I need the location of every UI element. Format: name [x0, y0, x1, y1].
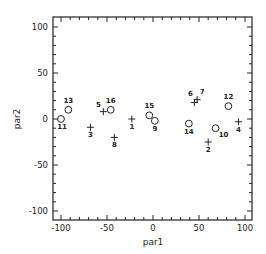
- x-tick-label: 0: [150, 223, 155, 233]
- plus-marker: [205, 139, 212, 146]
- plus-marker: [111, 134, 118, 141]
- x-tick-label: -100: [51, 223, 70, 233]
- point-label: 6: [188, 90, 193, 98]
- point-label: 7: [200, 88, 205, 96]
- point-label: 16: [106, 97, 116, 105]
- circle-marker: [146, 112, 153, 119]
- y-tick-label: -50: [34, 160, 48, 170]
- plus-marker: [235, 118, 242, 125]
- point-label: 10: [219, 131, 229, 139]
- point-label: 5: [96, 101, 101, 109]
- scatter-chart: -100-50050100 -100-50050100 123456789101…: [0, 0, 266, 254]
- point-label: 11: [57, 123, 67, 131]
- point-label: 2: [206, 146, 211, 154]
- y-axis-ticks: -100-50050100: [29, 22, 252, 216]
- x-axis-label: par1: [143, 237, 164, 247]
- point-label: 13: [63, 97, 73, 105]
- y-tick-label: 50: [37, 68, 48, 78]
- y-axis-label: par2: [12, 109, 22, 130]
- plus-marker: [100, 108, 107, 115]
- circle-marker: [225, 103, 232, 110]
- y-tick-label: -100: [29, 206, 48, 216]
- circle-marker: [65, 106, 72, 113]
- point-label: 4: [236, 126, 241, 134]
- point-label: 3: [88, 131, 93, 139]
- circle-marker: [185, 120, 192, 127]
- plus-marker: [128, 116, 135, 123]
- point-label: 14: [184, 128, 194, 136]
- point-label: 1: [129, 123, 134, 131]
- x-tick-label: 50: [194, 223, 205, 233]
- data-points: 12345678910111213141516: [57, 88, 242, 154]
- circle-marker: [58, 116, 65, 123]
- point-label: 8: [112, 141, 117, 149]
- y-tick-label: 0: [43, 114, 48, 124]
- point-label: 9: [152, 125, 157, 133]
- plus-marker: [87, 124, 94, 131]
- x-tick-label: -50: [100, 223, 114, 233]
- circle-marker: [151, 117, 158, 124]
- y-tick-label: 100: [32, 22, 48, 32]
- point-label: 12: [224, 93, 234, 101]
- circle-marker: [107, 106, 114, 113]
- point-label: 15: [144, 102, 154, 110]
- x-tick-label: 100: [237, 223, 253, 233]
